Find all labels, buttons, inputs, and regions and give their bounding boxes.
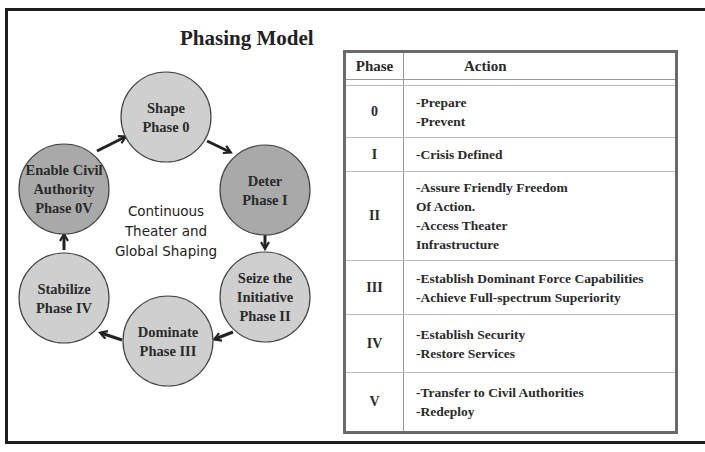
phase-node-label: Enable Civil — [26, 162, 103, 178]
action-cell: -Crisis Defined — [404, 138, 677, 172]
phase-node-label: Phase III — [140, 343, 197, 359]
phase-node-label: Shape — [147, 100, 185, 116]
header-action: Action — [404, 52, 677, 80]
phase-node-enable: Enable CivilAuthorityPhase 0V — [19, 144, 109, 234]
phase-node-seize: Seize theInitiativePhase II — [220, 252, 310, 342]
action-item: -Establish Dominant Force Capabilities — [416, 269, 675, 288]
action-item: -Crisis Defined — [416, 145, 675, 164]
phase-node-label: Phase 0 — [142, 119, 189, 135]
phase-node-deter: DeterPhase I — [220, 145, 310, 235]
action-cell: -Transfer to Civil Authorities-Redeploy — [404, 373, 677, 433]
phase-node-dominate: DominatePhase III — [123, 296, 213, 386]
table-row: 0-Prepare-Prevent — [345, 86, 677, 138]
action-cell: -Assure Friendly FreedomOf Action.-Acces… — [404, 172, 677, 261]
action-item: Of Action. — [416, 197, 675, 216]
action-item: -Assure Friendly Freedom — [416, 178, 675, 197]
phase-node-label: Phase IV — [36, 300, 93, 316]
phase-node-label: Phase II — [239, 308, 291, 324]
phase-node-label: Deter — [248, 173, 283, 189]
phase-node-label: Initiative — [237, 289, 294, 305]
action-item: -Access Theater — [416, 216, 675, 235]
phase-node-label: Authority — [33, 181, 95, 197]
center-label: Global Shaping — [115, 243, 217, 259]
phase-node-stabilize: StabilizePhase IV — [19, 253, 109, 343]
header-phase: Phase — [345, 52, 404, 80]
action-item: -Redeploy — [416, 402, 675, 421]
phase-cell: I — [345, 138, 404, 172]
phase-cell: II — [345, 172, 404, 261]
center-label: Continuous — [128, 203, 204, 219]
action-item: -Restore Services — [416, 344, 675, 363]
table-row: V-Transfer to Civil Authorities-Redeploy — [345, 373, 677, 433]
action-cell: -Prepare-Prevent — [404, 86, 677, 138]
arrow-enable-to-shape — [97, 137, 125, 151]
table-row: II-Assure Friendly FreedomOf Action.-Acc… — [345, 172, 677, 261]
arrow-shape-to-deter — [207, 141, 230, 152]
arrow-seize-to-dominate — [215, 332, 233, 339]
action-item: -Establish Security — [416, 325, 675, 344]
action-cell: -Establish Security-Restore Services — [404, 315, 677, 373]
phase-action-table: Phase Action 0-Prepare-PreventI-Crisis D… — [343, 50, 678, 434]
center-label: Theater and — [124, 223, 207, 239]
action-item: -Prevent — [416, 112, 675, 131]
phase-node-label: Seize the — [238, 270, 293, 286]
phase-cell: IV — [345, 315, 404, 373]
phase-cell: V — [345, 373, 404, 433]
phase-node-label: Phase I — [242, 192, 288, 208]
phase-cell: 0 — [345, 86, 404, 138]
action-item: -Transfer to Civil Authorities — [416, 383, 675, 402]
phase-cell: III — [345, 261, 404, 315]
phase-cycle-diagram: ShapePhase 0DeterPhase ISeize theInitiat… — [0, 0, 340, 452]
table-row: IV-Establish Security-Restore Services — [345, 315, 677, 373]
phase-node-label: Phase 0V — [35, 200, 93, 216]
table-row: III-Establish Dominant Force Capabilitie… — [345, 261, 677, 315]
action-item: -Achieve Full-spectrum Superiority — [416, 288, 675, 307]
action-item: Infrastructure — [416, 235, 675, 254]
action-cell: -Establish Dominant Force Capabilities-A… — [404, 261, 677, 315]
phase-node-shape: ShapePhase 0 — [121, 72, 211, 162]
phase-node-label: Stabilize — [37, 281, 91, 297]
phase-node-label: Dominate — [138, 324, 199, 340]
action-item: -Prepare — [416, 93, 675, 112]
arrow-dominate-to-stabilize — [101, 333, 122, 340]
table-row: I-Crisis Defined — [345, 138, 677, 172]
